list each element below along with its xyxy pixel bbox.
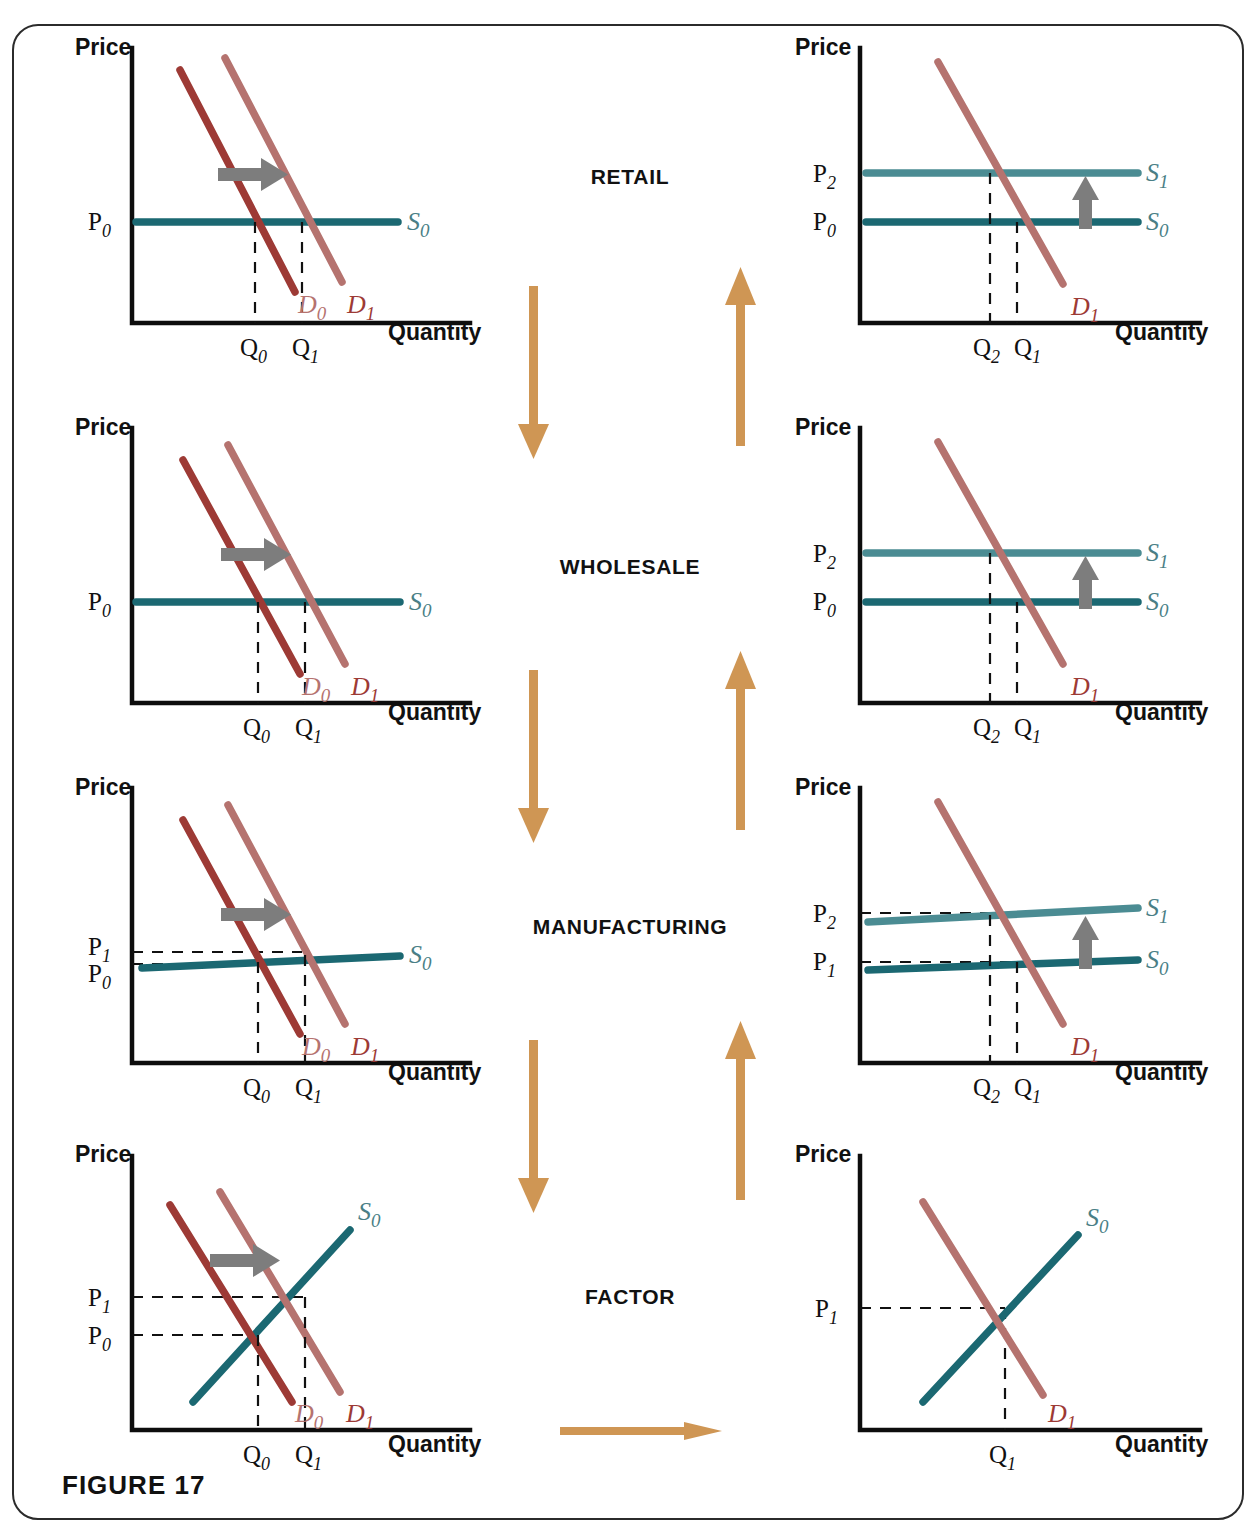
demand-curve-D1-label: D1 bbox=[350, 1032, 379, 1066]
price-axis-label: Price bbox=[75, 1141, 131, 1167]
panel-manufacturing-right: Price Quantity P2 P1 Q2 Q1 S1 S0 D1 bbox=[790, 770, 1220, 1100]
price-tick-P1: P1 bbox=[813, 948, 836, 981]
panel-retail-right: Price Quantity P2 P0 Q2 Q1 S1 S0 D1 bbox=[790, 30, 1220, 360]
demand-curve-D1-label: D1 bbox=[1070, 672, 1099, 706]
supply-curve-S0-label: S0 bbox=[409, 940, 432, 974]
supply-curve-S1-label: S1 bbox=[1146, 158, 1169, 192]
chart-axes bbox=[132, 788, 470, 1063]
demand-curve-D1-label: D1 bbox=[1070, 292, 1099, 326]
figure-caption: FIGURE 17 bbox=[62, 1470, 205, 1501]
supply-curve-S0-label: S0 bbox=[358, 1197, 381, 1231]
chart-axes bbox=[860, 788, 1200, 1063]
demand-curve-D0-label: D0 bbox=[294, 1399, 324, 1433]
price-axis-label: Price bbox=[795, 1141, 851, 1167]
demand-curve-D1 bbox=[220, 1192, 340, 1392]
price-tick-P1: P1 bbox=[815, 1295, 838, 1328]
price-tick-P0: P0 bbox=[88, 1322, 111, 1355]
panel-factor-right: Price Quantity P1 Q1 S0 D1 bbox=[790, 1130, 1220, 1470]
supply-curve-S0-label: S0 bbox=[407, 207, 430, 241]
demand-curve-D0-label: D0 bbox=[301, 1032, 331, 1066]
demand-curve-D0-label: D0 bbox=[297, 290, 327, 324]
stage-label-wholesale: WHOLESALE bbox=[560, 555, 700, 579]
demand-curve-D0 bbox=[183, 460, 300, 674]
supply-curve-S1-label: S1 bbox=[1146, 538, 1169, 572]
chart-axes bbox=[132, 428, 470, 703]
stage-label-factor: FACTOR bbox=[585, 1285, 675, 1309]
supply-curve-S0-label: S0 bbox=[1146, 945, 1169, 979]
chart-axes bbox=[132, 48, 470, 323]
panel-retail-left: Price Quantity P0 Q0 Q1 S0 D0 D1 bbox=[70, 30, 490, 360]
quantity-tick-Q1: Q1 bbox=[295, 1441, 322, 1474]
price-axis-label: Price bbox=[75, 774, 131, 800]
stage-label-manufacturing: MANUFACTURING bbox=[533, 915, 728, 939]
panel-manufacturing-left: Price Quantity P1 P0 Q0 Q1 S0 D0 D1 bbox=[70, 770, 490, 1100]
supply-curve-S0-label: S0 bbox=[1086, 1203, 1109, 1237]
quantity-tick-Q1: Q1 bbox=[989, 1441, 1016, 1474]
panel-wholesale-right: Price Quantity P2 P0 Q2 Q1 S1 S0 D1 bbox=[790, 410, 1220, 740]
price-tick-P2: P2 bbox=[813, 900, 836, 933]
price-tick-P0: P0 bbox=[88, 588, 111, 621]
supply-curve-S0 bbox=[923, 1235, 1078, 1402]
supply-curve-S1-label: S1 bbox=[1146, 893, 1169, 927]
supply-curve-S0-label: S0 bbox=[1146, 207, 1169, 241]
price-tick-P0: P0 bbox=[813, 208, 836, 241]
demand-curve-D1-label: D1 bbox=[345, 1399, 374, 1433]
price-tick-P2: P2 bbox=[813, 160, 836, 193]
quantity-axis-label: Quantity bbox=[388, 1431, 481, 1457]
demand-curve-D0 bbox=[170, 1205, 292, 1402]
demand-curve-D0-label: D0 bbox=[301, 672, 331, 706]
supply-curve-S0 bbox=[142, 956, 400, 968]
price-tick-P0: P0 bbox=[88, 208, 111, 241]
demand-curve-D1-label: D1 bbox=[346, 290, 375, 324]
supply-curve-S0-label: S0 bbox=[409, 587, 432, 621]
price-axis-label: Price bbox=[795, 414, 851, 440]
demand-curve-D1-label: D1 bbox=[350, 672, 379, 706]
price-tick-P2: P2 bbox=[813, 540, 836, 573]
stage-label-retail: RETAIL bbox=[591, 165, 669, 189]
price-axis-label: Price bbox=[795, 34, 851, 60]
price-axis-label: Price bbox=[75, 34, 131, 60]
panel-wholesale-left: Price Quantity P0 Q0 Q1 S0 D0 D1 bbox=[70, 410, 490, 740]
chart-axes bbox=[132, 1156, 470, 1430]
supply-curve-S0-label: S0 bbox=[1146, 587, 1169, 621]
quantity-tick-Q0: Q0 bbox=[243, 1441, 270, 1474]
price-axis-label: Price bbox=[795, 774, 851, 800]
price-tick-P1: P1 bbox=[88, 1284, 111, 1317]
price-tick-P0: P0 bbox=[813, 588, 836, 621]
chart-axes bbox=[860, 1156, 1200, 1430]
demand-curve-D1-label: D1 bbox=[1047, 1399, 1076, 1433]
demand-curve-D0 bbox=[183, 820, 300, 1034]
demand-curve-D1 bbox=[923, 1202, 1043, 1395]
quantity-axis-label: Quantity bbox=[1115, 1431, 1208, 1457]
price-axis-label: Price bbox=[75, 414, 131, 440]
demand-curve-D1-label: D1 bbox=[1070, 1032, 1099, 1066]
panel-factor-left: Price Quantity P1 P0 Q0 Q1 S0 D0 D1 bbox=[70, 1130, 490, 1470]
